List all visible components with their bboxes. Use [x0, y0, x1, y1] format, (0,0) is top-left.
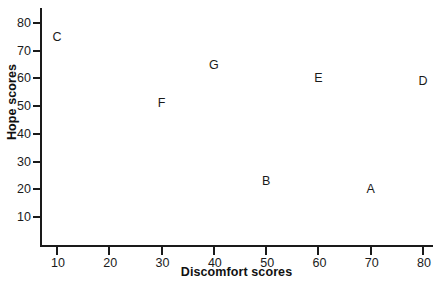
- x-tick: [422, 247, 424, 255]
- data-point-a: A: [361, 183, 381, 196]
- x-tick: [161, 247, 163, 255]
- data-point-c: C: [47, 31, 67, 44]
- y-tick-label: 80: [3, 17, 31, 30]
- y-tick-label: 20: [3, 183, 31, 196]
- x-tick: [213, 247, 215, 255]
- y-tick-label: 10: [3, 211, 31, 224]
- x-tick: [108, 247, 110, 255]
- y-tick: [33, 77, 41, 79]
- data-point-g: G: [204, 58, 224, 71]
- y-tick-label: 30: [3, 155, 31, 168]
- data-point-f: F: [152, 97, 172, 110]
- scatter-plot-figure: 1020304050607080 1020304050607080 CFGBEA…: [0, 0, 441, 282]
- x-axis-title: Discomfort scores: [40, 265, 433, 279]
- y-tick: [33, 133, 41, 135]
- y-tick: [33, 50, 41, 52]
- data-point-e: E: [308, 72, 328, 85]
- data-point-b: B: [256, 175, 276, 188]
- y-axis-title: Hope scores: [5, 52, 19, 152]
- y-tick: [33, 188, 41, 190]
- y-tick: [33, 161, 41, 163]
- x-tick: [265, 247, 267, 255]
- y-tick: [33, 105, 41, 107]
- y-tick: [33, 22, 41, 24]
- x-tick: [56, 247, 58, 255]
- x-tick: [370, 247, 372, 255]
- y-axis-line: [40, 8, 42, 247]
- x-tick: [317, 247, 319, 255]
- y-tick: [33, 216, 41, 218]
- x-axis-line: [40, 245, 433, 247]
- data-point-d: D: [413, 75, 433, 88]
